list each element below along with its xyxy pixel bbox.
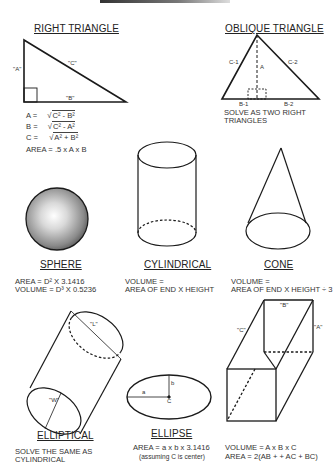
ellipse-label-a: a	[142, 389, 145, 395]
ellipse-shape	[127, 375, 211, 419]
elliptical-line2: CYLINDRICAL	[15, 456, 65, 465]
ellipse-label-c: C	[167, 398, 171, 404]
box-area: AREA = 2(AB + + AC + BC)	[225, 453, 318, 462]
box-label-a: "A"	[314, 324, 322, 330]
right-triangle-area: AREA = .5 x A x B	[26, 146, 87, 155]
cylindrical-title: CYLINDRICAL	[144, 259, 211, 270]
cylinder-shape	[138, 142, 196, 246]
elliptical-label-l: "L"	[90, 321, 98, 327]
oblique-label-c1: C-1	[229, 59, 239, 65]
right-triangle-shape	[24, 40, 126, 102]
sphere-volume: VOLUME = D³ X 0.5236	[15, 286, 96, 295]
ellipse-label-b: b	[171, 380, 174, 386]
oblique-note-line2: TRIANGLES	[224, 117, 267, 126]
oblique-label-c2: C-2	[288, 59, 298, 65]
formula-a: A = √C² - B²	[26, 112, 75, 121]
sqrt-icon: √	[47, 111, 51, 120]
oblique-label-b2: B-2	[284, 101, 293, 107]
formula-c: C = √A² + B²	[26, 134, 78, 143]
ellipse-note: (assuming C is center)	[139, 453, 205, 460]
right-triangle-label-b: "B"	[66, 95, 74, 101]
cone-line2: AREA OF END X HEIGHT ÷ 3	[231, 286, 333, 295]
ellipse-area: AREA = a x b x 3.1416	[133, 444, 210, 453]
sphere-title: SPHERE	[40, 259, 82, 270]
box-label-c: "C"	[237, 327, 246, 333]
right-triangle-label-a: "A"	[13, 66, 21, 72]
elliptical-cylinder-shape	[19, 302, 132, 444]
ellipse-title: ELLIPSE	[151, 428, 192, 439]
oblique-label-a: A	[260, 64, 264, 70]
box-shape	[227, 300, 313, 421]
cone-title: CONE	[264, 259, 293, 270]
right-triangle-label-c: "C"	[68, 60, 77, 66]
box-label-b: "B"	[280, 302, 288, 308]
cylindrical-line2: AREA OF END X HEIGHT	[125, 286, 214, 295]
cone-shape	[246, 148, 310, 249]
oblique-triangle-title: OBLIQUE TRIANGLE	[225, 23, 324, 34]
oblique-label-b1: B-1	[239, 101, 248, 107]
right-triangle-title: RIGHT TRIANGLE	[34, 23, 119, 34]
elliptical-label-w: "W"	[49, 397, 59, 403]
oblique-triangle-shape	[222, 35, 319, 99]
sphere-shape	[26, 188, 88, 250]
elliptical-title: ELLIPTICAL	[37, 430, 94, 441]
formula-b: B = √C² - A²	[26, 123, 75, 132]
